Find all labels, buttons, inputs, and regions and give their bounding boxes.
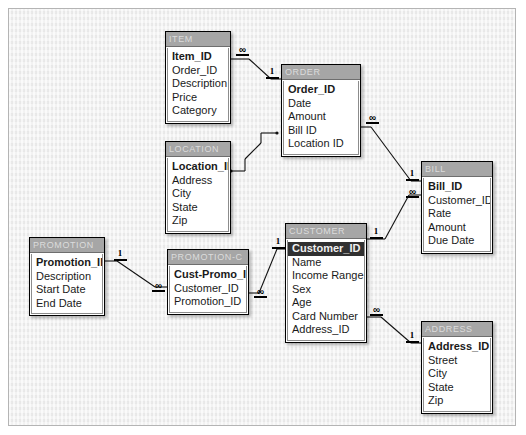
table-promotion-c-title: PROMOTION-C [168,250,248,265]
table-promotion-fields: Promotion_ID Description Start Date End … [31,254,103,314]
field-promotion-start-date[interactable]: Start Date [32,283,102,297]
field-bill-amount[interactable]: Amount [424,221,490,235]
cardinality-promotionc-customer-one: 1 [271,237,285,249]
table-customer-title: CUSTOMER [286,224,366,239]
table-address[interactable]: ADDRESS Address_ID Street City State Zip [421,321,493,414]
table-address-title: ADDRESS [422,322,492,337]
field-bill-customer-id[interactable]: Customer_ID [424,194,490,208]
field-address-zip[interactable]: Zip [424,394,490,408]
field-customer-name[interactable]: Name [288,256,364,270]
field-customer-income-range[interactable]: Income Range [288,269,364,283]
field-location-location-id[interactable]: Location_ID [168,160,228,174]
field-promotion-description[interactable]: Description [32,270,102,284]
field-item-category[interactable]: Category [168,104,228,118]
table-order[interactable]: ORDER Order_ID Date Amount Bill ID Locat… [281,64,361,157]
field-order-date[interactable]: Date [284,97,358,111]
cardinality-promotion-promotionc-many: ∞ [151,281,165,292]
table-location-fields: Location_ID Address City State Zip [167,158,229,232]
table-promotion-title: PROMOTION [30,238,104,253]
field-order-amount[interactable]: Amount [284,110,358,124]
field-promotion-end-date[interactable]: End Date [32,297,102,311]
field-promotion-c-cust-promo-id[interactable]: Cust-Promo_ID [170,268,246,282]
field-promotion-promotion-id[interactable]: Promotion_ID [32,256,102,270]
cardinality-customer-address-many: ∞ [369,305,383,316]
table-bill-title: BILL [422,162,492,177]
field-address-city[interactable]: City [424,367,490,381]
table-location[interactable]: LOCATION Location_ID Address City State … [165,141,231,234]
er-diagram-canvas[interactable]: ITEM Item_ID Order_ID Description Price … [8,8,516,426]
field-bill-bill-id[interactable]: Bill_ID [424,180,490,194]
field-address-state[interactable]: State [424,381,490,395]
field-item-description[interactable]: Description [168,77,228,91]
table-promotion[interactable]: PROMOTION Promotion_ID Description Start… [29,237,105,316]
field-location-city[interactable]: City [168,187,228,201]
table-address-fields: Address_ID Street City State Zip [423,338,491,412]
field-order-order-id[interactable]: Order_ID [284,83,358,97]
field-item-price[interactable]: Price [168,91,228,105]
field-bill-rate[interactable]: Rate [424,207,490,221]
table-item-fields: Item_ID Order_ID Description Price Categ… [167,48,229,122]
field-customer-card-number[interactable]: Card Number [288,310,364,324]
cardinality-customer-bill-one: 1 [369,227,383,239]
cardinality-customer-bill-many: ∞ [405,187,419,198]
cardinality-item-order-one: 1 [265,67,279,79]
cardinality-customer-address-one: 1 [405,331,419,343]
table-promotion-c-fields: Cust-Promo_ID Customer_ID Promotion_ID [169,266,247,313]
field-item-item-id[interactable]: Item_ID [168,50,228,64]
table-bill-fields: Bill_ID Customer_ID Rate Amount Due Date [423,178,491,252]
field-bill-due-date[interactable]: Due Date [424,234,490,248]
field-promotion-c-promotion-id[interactable]: Promotion_ID [170,295,246,309]
field-address-address-id[interactable]: Address_ID [424,340,490,354]
table-promotion-c[interactable]: PROMOTION-C Cust-Promo_ID Customer_ID Pr… [167,249,249,315]
table-item[interactable]: ITEM Item_ID Order_ID Description Price … [165,31,231,124]
field-customer-sex[interactable]: Sex [288,283,364,297]
field-item-order-id[interactable]: Order_ID [168,64,228,78]
field-address-street[interactable]: Street [424,354,490,368]
table-order-fields: Order_ID Date Amount Bill ID Location ID [283,81,359,155]
table-item-title: ITEM [166,32,230,47]
field-location-address[interactable]: Address [168,174,228,188]
table-bill[interactable]: BILL Bill_ID Customer_ID Rate Amount Due… [421,161,493,254]
field-order-location-id[interactable]: Location ID [284,137,358,151]
table-order-title: ORDER [282,65,360,80]
cardinality-item-order-many: ∞ [235,45,249,56]
cardinality-promotion-promotionc-one: 1 [113,249,127,261]
field-promotion-c-customer-id[interactable]: Customer_ID [170,282,246,296]
cardinality-order-bill-one: 1 [405,169,419,181]
table-location-title: LOCATION [166,142,230,157]
table-customer-fields: Customer_ID Name Income Range Sex Age Ca… [287,240,365,341]
field-location-state[interactable]: State [168,201,228,215]
field-customer-customer-id[interactable]: Customer_ID [288,242,364,256]
cardinality-order-bill-many: ∞ [365,113,379,124]
field-customer-age[interactable]: Age [288,296,364,310]
cardinality-promotionc-customer-many: ∞ [253,287,267,298]
field-location-zip[interactable]: Zip [168,214,228,228]
table-customer[interactable]: CUSTOMER Customer_ID Name Income Range S… [285,223,367,343]
field-order-bill-id[interactable]: Bill ID [284,124,358,138]
field-customer-address-id[interactable]: Address_ID [288,323,364,337]
